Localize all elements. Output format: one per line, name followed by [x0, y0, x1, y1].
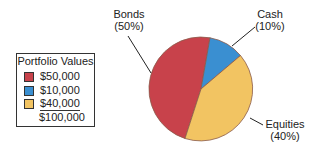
label-pct: (10%) — [250, 20, 290, 32]
label-equities: Equities (40%) — [259, 118, 311, 142]
label-bonds: Bonds (50%) — [104, 8, 154, 32]
label-name: Cash — [250, 8, 290, 20]
label-name: Bonds — [104, 8, 154, 20]
leader-bonds — [128, 36, 151, 73]
label-pct: (50%) — [104, 20, 154, 32]
label-name: Equities — [259, 118, 311, 130]
label-cash: Cash (10%) — [250, 8, 290, 32]
label-pct: (40%) — [259, 130, 311, 142]
